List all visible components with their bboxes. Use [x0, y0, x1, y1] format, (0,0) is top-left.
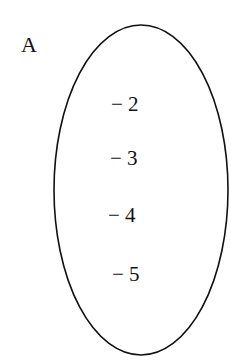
set-element: − 4	[108, 204, 136, 226]
set-element: − 2	[111, 93, 139, 115]
set-element: − 5	[112, 263, 140, 285]
set-element: − 3	[110, 147, 138, 169]
set-ellipse	[0, 0, 231, 360]
